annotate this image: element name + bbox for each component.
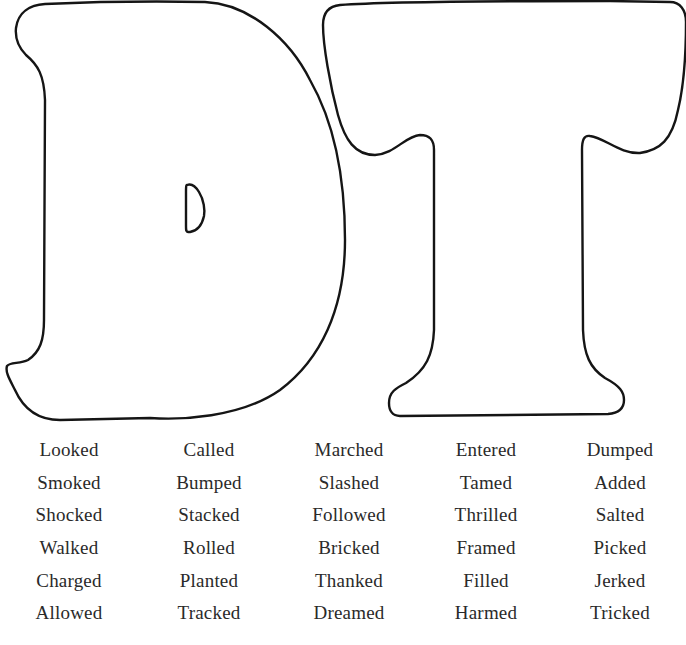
word: Charged xyxy=(0,570,138,592)
word: Rolled xyxy=(138,537,280,559)
word-grid: Looked Called Marched Entered Dumped Smo… xyxy=(0,434,686,630)
word: Followed xyxy=(280,504,418,526)
word: Thanked xyxy=(280,570,418,592)
word: Shocked xyxy=(0,504,138,526)
word: Walked xyxy=(0,537,138,559)
letter-outlines xyxy=(0,0,686,430)
word-row: Walked Rolled Bricked Framed Picked xyxy=(0,532,686,565)
word: Smoked xyxy=(0,472,138,494)
word: Entered xyxy=(418,439,554,461)
word: Salted xyxy=(554,504,686,526)
word: Added xyxy=(554,472,686,494)
word-row: Allowed Tracked Dreamed Harmed Tricked xyxy=(0,597,686,630)
word: Tricked xyxy=(554,602,686,624)
word-row: Looked Called Marched Entered Dumped xyxy=(0,434,686,467)
word: Filled xyxy=(418,570,554,592)
word: Framed xyxy=(418,537,554,559)
letter-t-outline xyxy=(323,1,686,416)
word: Picked xyxy=(554,537,686,559)
word-row: Charged Planted Thanked Filled Jerked xyxy=(0,564,686,597)
word: Slashed xyxy=(280,472,418,494)
word: Bricked xyxy=(280,537,418,559)
word: Bumped xyxy=(138,472,280,494)
word: Allowed xyxy=(0,602,138,624)
word: Harmed xyxy=(418,602,554,624)
word: Called xyxy=(138,439,280,461)
word: Planted xyxy=(138,570,280,592)
word: Tamed xyxy=(418,472,554,494)
letter-d-outline xyxy=(7,2,345,420)
word: Dumped xyxy=(554,439,686,461)
word: Jerked xyxy=(554,570,686,592)
word-row: Shocked Stacked Followed Thrilled Salted xyxy=(0,499,686,532)
word: Marched xyxy=(280,439,418,461)
word: Thrilled xyxy=(418,504,554,526)
word-row: Smoked Bumped Slashed Tamed Added xyxy=(0,467,686,500)
word: Tracked xyxy=(138,602,280,624)
word: Stacked xyxy=(138,504,280,526)
word: Dreamed xyxy=(280,602,418,624)
word: Looked xyxy=(0,439,138,461)
